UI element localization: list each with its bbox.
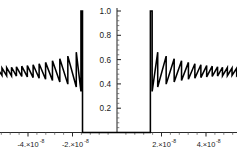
svg-text:2.×10: 2.×10 [152, 140, 171, 149]
svg-text:4.×10: 4.×10 [197, 140, 216, 149]
y-tick-label: 0.4 [100, 80, 112, 89]
curve-group [0, 11, 237, 133]
y-tick-label-group: 0.20.40.60.81.0 [100, 7, 112, 113]
plot-canvas: 0.20.40.60.81.0 -4.×10-8-2.×10-82.×10-84… [0, 0, 237, 163]
x-tick-label-exponent: -8 [216, 138, 221, 144]
plot-figure: 0.20.40.60.81.0 -4.×10-8-2.×10-82.×10-84… [0, 0, 237, 163]
svg-text:-4.×10: -4.×10 [17, 140, 38, 149]
y-tick-label: 0.2 [100, 104, 112, 113]
svg-text:-2.×10: -2.×10 [62, 140, 83, 149]
x-tick-label-group: -4.×10-8-2.×10-82.×10-84.×10-8 [17, 138, 220, 148]
x-tick-label: -2.×10-8 [62, 138, 89, 148]
y-tick-label: 0.8 [100, 31, 112, 40]
x-tick-label-exponent: -8 [84, 138, 89, 144]
y-tick-label: 0.6 [100, 56, 112, 65]
x-tick-label: 2.×10-8 [152, 138, 176, 148]
waveform-curve [0, 11, 237, 133]
x-tick-label-exponent: -8 [40, 138, 45, 144]
x-tick-label: -4.×10-8 [17, 138, 44, 148]
x-tick-label-exponent: -8 [171, 138, 176, 144]
y-tick-label: 1.0 [100, 7, 112, 16]
x-tick-label: 4.×10-8 [197, 138, 221, 148]
y-axis-group [117, 8, 121, 133]
